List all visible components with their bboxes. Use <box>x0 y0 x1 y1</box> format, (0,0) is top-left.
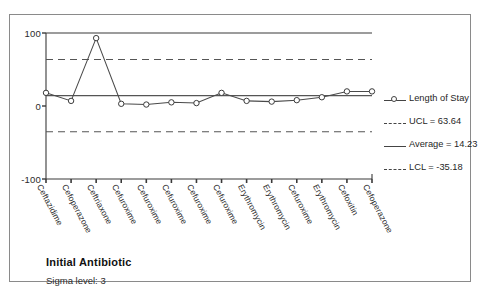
chart-legend: Length of Stay UCL = 63.64 Average = 14.… <box>382 92 482 192</box>
axes-group <box>42 33 372 179</box>
legend-line-dashed-icon <box>384 123 406 126</box>
legend-label-ucl: UCL = 63.64 <box>409 117 461 126</box>
sigma-level-text: Sigma level: 3 <box>46 275 132 286</box>
x-axis-label: Ceftazidime <box>36 183 65 227</box>
legend-line-dashed-lower-icon <box>384 169 406 172</box>
data-point <box>219 90 224 95</box>
x-axis-category-labels: CeftazidimeCefoperazoneCeftriaxoneCefuro… <box>46 183 386 261</box>
legend-label-series: Length of Stay <box>409 94 469 103</box>
legend-item-length-of-stay: Length of Stay <box>382 92 482 112</box>
x-axis-label: Cefuroxime <box>186 183 214 226</box>
legend-circle-marker-icon <box>391 96 397 102</box>
data-point <box>344 89 349 94</box>
data-point <box>294 97 299 102</box>
x-axis-title: Initial Antibiotic <box>46 256 132 268</box>
x-axis-label: Cefoxitin <box>336 183 359 217</box>
data-point <box>269 99 274 104</box>
data-point <box>319 95 324 100</box>
x-axis-label: Cefuroxime <box>286 183 314 226</box>
legend-label-average: Average = 14.23 <box>409 140 477 149</box>
data-point <box>68 98 73 103</box>
y-axis-tick-label-0: 0 <box>36 102 41 112</box>
x-axis-label: Cefuroxime <box>161 183 189 226</box>
data-point <box>119 101 124 106</box>
legend-label-lcl: LCL = -35.18 <box>409 163 463 172</box>
x-axis-label: Cefuroxime <box>111 183 139 226</box>
legend-line-center-icon <box>384 146 406 149</box>
y-axis-tick-label-100: 100 <box>25 29 41 39</box>
legend-item-lcl: LCL = -35.18 <box>382 161 482 181</box>
legend-item-average: Average = 14.23 <box>382 138 482 158</box>
data-point <box>43 90 48 95</box>
data-point <box>93 35 98 40</box>
legend-item-ucl: UCL = 63.64 <box>382 115 482 135</box>
chart-canvas <box>46 33 372 179</box>
chart-footer: Initial Antibiotic Sigma level: 3 <box>46 256 132 286</box>
control-chart-card: 100 0 -100 CeftazidimeCefoperazoneCeftri… <box>9 14 471 282</box>
x-axis-label: Cefuroxime <box>211 183 239 226</box>
x-axis-label: Cefuroxime <box>136 183 164 226</box>
y-axis-tick-label-neg100: -100 <box>21 175 41 185</box>
plot-area: 100 0 -100 <box>46 33 372 179</box>
data-point <box>194 100 199 105</box>
data-point <box>169 100 174 105</box>
data-point <box>144 102 149 107</box>
data-point <box>369 89 374 94</box>
x-axis-label: Ceftriaxone <box>86 183 114 226</box>
data-point <box>244 98 249 103</box>
